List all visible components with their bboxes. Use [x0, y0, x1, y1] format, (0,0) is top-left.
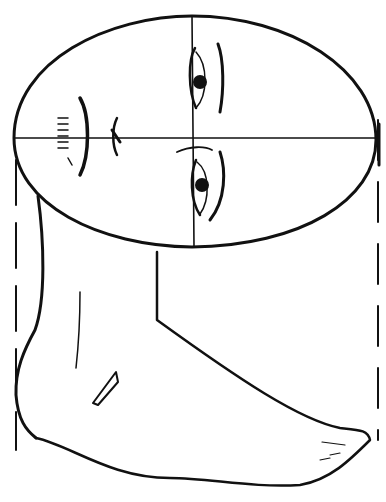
- mouth: [58, 98, 88, 175]
- lower-eye: [177, 147, 224, 220]
- upper-eye: [190, 44, 223, 112]
- sketch-canvas: [0, 0, 386, 502]
- nose: [112, 118, 120, 155]
- foot: [16, 196, 370, 486]
